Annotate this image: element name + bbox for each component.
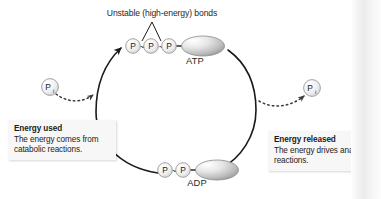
leader-lines-unstable-bonds (142, 22, 161, 41)
free-phosphate-right-label: P (307, 83, 313, 93)
free-phosphate-right-subscript: i (315, 89, 316, 95)
adp-label: ADP (177, 178, 217, 188)
phosphate-label: P (162, 165, 168, 175)
callout-energy-released-body: The energy drives anabolic reactions. (274, 146, 370, 166)
phosphate-label: P (130, 41, 136, 51)
phosphate-atp-2: P (144, 39, 159, 54)
phosphate-label: P (166, 41, 172, 51)
callout-energy-used-title: Energy used (14, 124, 110, 134)
atp-adp-cycle-figure: ~ ~ P P P ~ P (0, 0, 381, 199)
phosphate-atp-3: P (162, 39, 177, 54)
free-phosphate-left-subscript: i (53, 88, 54, 94)
adenosine-ellipse-adp (196, 160, 239, 180)
callout-energy-used-body: The energy comes from catabolic reaction… (14, 135, 110, 155)
phosphate-adp-2: P (176, 163, 191, 178)
unstable-bonds-annotation: Unstable (high-energy) bonds (87, 8, 237, 18)
free-phosphate-right: P i (304, 80, 321, 97)
callout-energy-used: Energy used The energy comes from catabo… (8, 120, 116, 160)
callout-energy-released: Energy released The energy drives anabol… (268, 131, 376, 171)
dotted-arrow-phosphate-in (56, 94, 93, 101)
atp-label: ATP (175, 56, 215, 66)
callout-energy-released-title: Energy released (274, 135, 370, 145)
phosphate-adp-1: P (158, 163, 173, 178)
free-phosphate-left-label: P (45, 82, 51, 92)
free-phosphate-left: P i (42, 79, 59, 96)
phosphate-atp-1: P (126, 39, 141, 54)
molecule-atp: ~ ~ P P P (126, 36, 225, 56)
adenosine-ellipse-atp (182, 36, 225, 56)
phosphate-label: P (148, 41, 154, 51)
phosphate-label: P (180, 165, 186, 175)
arc-arrow-atp-to-adp (222, 50, 256, 168)
molecule-adp: ~ P P (158, 160, 239, 180)
dotted-arrow-phosphate-out (259, 96, 304, 106)
